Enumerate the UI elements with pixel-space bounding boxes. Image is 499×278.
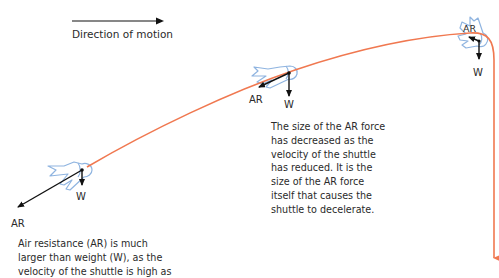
annotation-middle: The size of the AR force has decreased a… <box>271 120 385 217</box>
shuttle-1-ar-label: AR <box>11 218 25 230</box>
annotation-middle-line: itself that causes the <box>271 189 385 203</box>
annotation-middle-line: The size of the AR force <box>271 120 385 134</box>
shuttle-2-w-label: W <box>284 99 294 111</box>
annotation-middle-line: size of the AR force <box>271 175 385 189</box>
annotation-start: Air resistance (AR) is much larger than … <box>18 237 172 278</box>
shuttle-3-w-label: W <box>473 67 483 79</box>
shuttle-3-ar-label: AR <box>463 23 476 35</box>
direction-of-motion-label: Direction of motion <box>72 28 173 40</box>
shuttle-1-w-label: W <box>76 191 86 203</box>
annotation-start-line: larger than weight (W), as the <box>18 251 172 265</box>
annotation-middle-line: shuttle to decelerate. <box>271 203 385 217</box>
annotation-middle-line: has reduced. It is the <box>271 161 385 175</box>
shuttle-2-ar-label: AR <box>249 94 263 106</box>
annotation-start-line: Air resistance (AR) is much <box>18 237 172 251</box>
annotation-middle-line: velocity of the shuttle <box>271 148 385 162</box>
direction-arrow <box>72 18 164 25</box>
annotation-start-line: velocity of the shuttle is high as <box>18 265 172 278</box>
shuttle-1-forces <box>18 168 84 207</box>
annotation-middle-line: has decreased as the <box>271 134 385 148</box>
shuttle-3-forces <box>469 37 481 59</box>
